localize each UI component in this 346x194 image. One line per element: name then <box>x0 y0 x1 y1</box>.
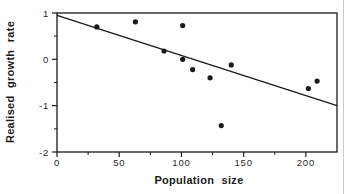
regression-line <box>57 15 337 105</box>
data-point <box>180 57 185 62</box>
y-axis-title: Realised growth rate <box>4 21 16 143</box>
x-tick-label: 50 <box>113 157 125 168</box>
plot-box <box>57 13 337 152</box>
data-point <box>219 123 224 128</box>
y-tick-label: 0 <box>43 54 49 65</box>
data-point <box>314 79 319 84</box>
data-point <box>133 19 138 24</box>
data-point <box>207 75 212 80</box>
data-point <box>306 86 311 91</box>
data-point <box>180 23 185 28</box>
data-point <box>229 62 234 67</box>
y-tick-label: -2 <box>39 147 49 158</box>
plot-area: 05010015020010-1-2 <box>39 8 337 169</box>
y-tick-label: -1 <box>39 100 49 111</box>
data-point <box>190 67 195 72</box>
x-axis-title: Population size <box>154 174 243 186</box>
x-tick-label: 200 <box>297 157 315 168</box>
data-point <box>161 48 166 53</box>
x-tick-label: 0 <box>54 157 60 168</box>
x-tick-label: 150 <box>235 157 253 168</box>
scatter-plot-canvas: 05010015020010-1-2 Population size Reali… <box>0 0 346 194</box>
x-tick-label: 100 <box>172 157 190 168</box>
scatter-plot-figure: 05010015020010-1-2 Population size Reali… <box>0 0 346 194</box>
data-point <box>94 24 99 29</box>
y-tick-label: 1 <box>43 8 49 19</box>
